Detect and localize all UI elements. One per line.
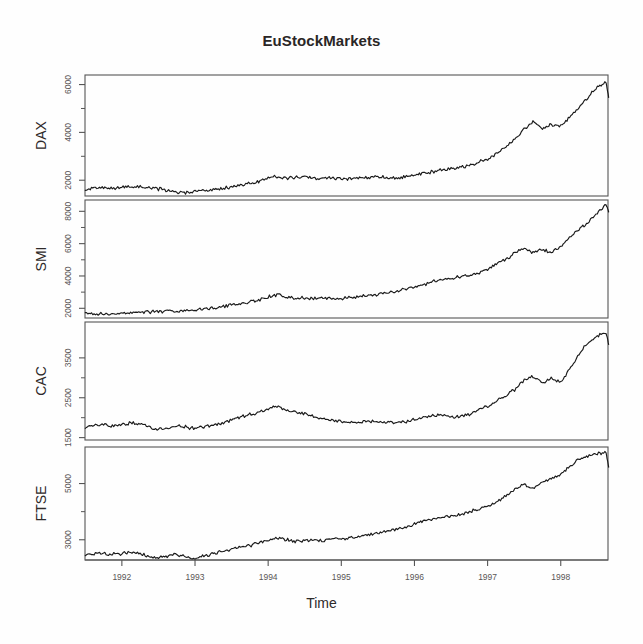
y-tick-label: 2500 [63, 388, 73, 407]
y-tick-label: 5000 [63, 474, 73, 493]
y-tick-label: 2000 [63, 170, 73, 189]
x-tick-label: 1994 [259, 572, 278, 582]
panel-label-smi: SMI [33, 247, 49, 272]
y-tick-label: 4000 [63, 266, 73, 285]
x-tick-label: 1995 [332, 572, 351, 582]
y-tick-label: 3000 [63, 530, 73, 549]
panel-label-dax: DAX [33, 120, 49, 149]
y-tick-label: 6000 [63, 75, 73, 94]
x-tick-label: 1998 [551, 572, 570, 582]
y-tick-label: 1500 [63, 428, 73, 447]
series-line-ftse [85, 451, 608, 559]
y-tick-label: 6000 [63, 234, 73, 253]
y-tick-label: 3500 [63, 348, 73, 367]
x-tick-label: 1992 [112, 572, 131, 582]
y-tick-label: 8000 [63, 202, 73, 221]
panel-label-cac: CAC [33, 366, 49, 396]
y-tick-label: 2000 [63, 299, 73, 318]
x-axis-title: Time [0, 595, 643, 611]
panel-label-ftse: FTSE [33, 486, 49, 522]
x-tick-label: 1993 [186, 572, 205, 582]
x-tick-label: 1996 [405, 572, 424, 582]
series-line-dax [85, 82, 608, 195]
eustockmarkets-multipanel-plot: 200040006000DAX2000400060008000SMI150025… [0, 0, 643, 644]
y-tick-label: 4000 [63, 123, 73, 142]
series-line-cac [85, 333, 608, 430]
x-tick-label: 1997 [478, 572, 497, 582]
series-line-smi [85, 205, 608, 316]
chart-figure: EuStockMarkets 200040006000DAX2000400060… [0, 0, 643, 644]
